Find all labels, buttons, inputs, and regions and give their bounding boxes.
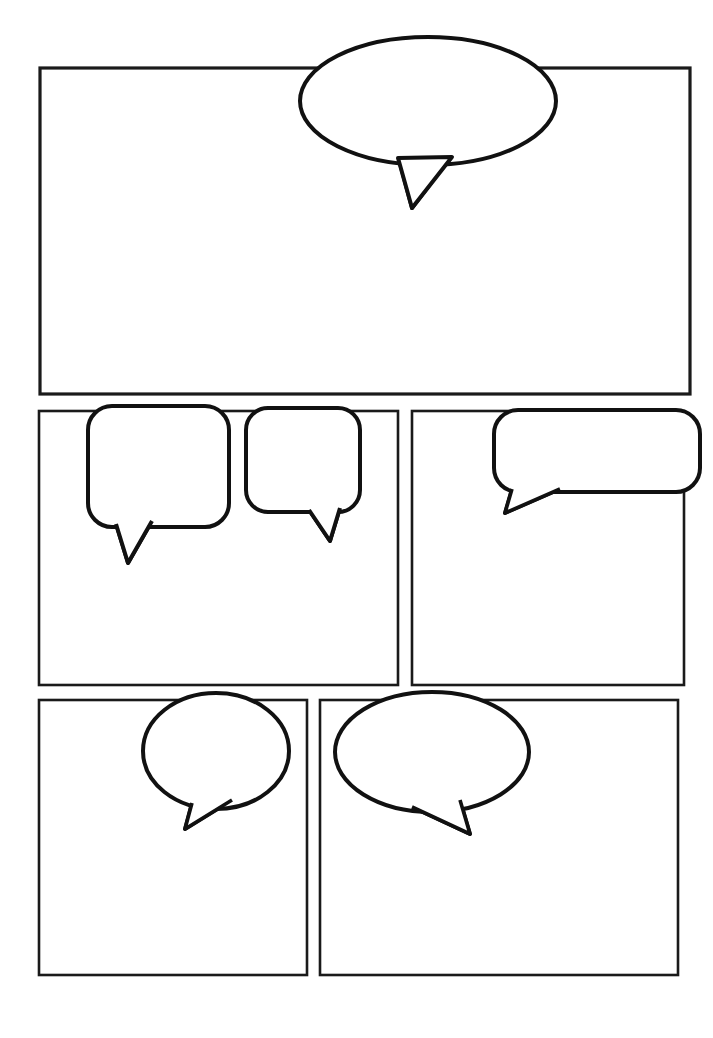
balloon-1-body[interactable] (300, 37, 556, 165)
balloon-5-body[interactable] (143, 693, 289, 809)
comic-artboard (0, 0, 713, 1038)
balloon-6-body[interactable] (335, 692, 529, 812)
comic-page (0, 0, 713, 1038)
balloon-2-body[interactable] (88, 406, 229, 527)
balloon-3-body[interactable] (246, 408, 360, 512)
balloon-4-body[interactable] (494, 410, 700, 492)
